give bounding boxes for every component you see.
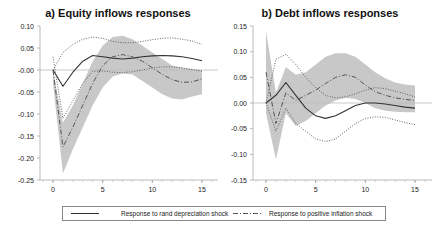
x-tick-label: 0 xyxy=(264,186,268,193)
x-tick-label: 5 xyxy=(101,186,105,193)
y-tick-label: -0.05 xyxy=(18,89,34,96)
y-tick-label: -0.00 xyxy=(18,67,34,74)
y-tick-label: 0.10 xyxy=(20,23,34,30)
y-tick-label: 0.10 xyxy=(233,48,247,55)
y-tick-label: -0.20 xyxy=(18,155,34,162)
y-tick-label: 0.15 xyxy=(233,23,247,30)
y-tick-label: -0.15 xyxy=(18,133,34,140)
y-tick-label: -0.15 xyxy=(231,177,247,184)
legend-dashdot-line-icon xyxy=(233,207,273,220)
impulse-response-figure: a) Equity inflows responses0.100.05-0.00… xyxy=(0,0,441,234)
x-tick-label: 0 xyxy=(51,186,55,193)
y-tick-label: 0.05 xyxy=(20,45,34,52)
y-tick-label: -0.05 xyxy=(231,125,247,132)
y-tick-label: -0.10 xyxy=(18,111,34,118)
legend-label-inflation: Response to positive inflation shock xyxy=(269,210,372,217)
y-tick-label: -0.25 xyxy=(18,177,34,184)
legend: Response to rand depreciation shock Resp… xyxy=(62,206,386,221)
panel-equity: a) Equity inflows responses0.100.05-0.00… xyxy=(18,7,218,193)
legend-solid-line-icon xyxy=(71,207,111,220)
panel-debt: b) Debt inflows responses0.150.100.050.0… xyxy=(231,7,432,193)
x-tick-label: 5 xyxy=(314,186,318,193)
y-tick-label: 0.05 xyxy=(233,74,247,81)
x-tick-label: 10 xyxy=(361,186,369,193)
x-tick-label: 15 xyxy=(198,186,206,193)
chart-title: a) Equity inflows responses xyxy=(45,7,190,19)
x-tick-label: 15 xyxy=(411,186,419,193)
legend-label-rand: Response to rand depreciation shock xyxy=(121,210,228,217)
chart-title: b) Debt inflows responses xyxy=(262,7,399,19)
y-tick-label: -0.10 xyxy=(231,151,247,158)
y-tick-label: 0.00 xyxy=(233,100,247,107)
x-tick-label: 10 xyxy=(148,186,156,193)
confidence-band xyxy=(266,31,415,159)
